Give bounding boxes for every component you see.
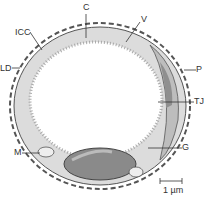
label-icc: ICC — [15, 28, 31, 37]
label-c: C — [83, 3, 90, 12]
label-ld: LD — [0, 64, 12, 73]
mitochondrion — [129, 167, 143, 177]
label-tj: TJ — [194, 97, 204, 106]
mitochondrion — [38, 147, 54, 157]
nucleus — [64, 148, 136, 180]
label-p: P — [196, 65, 202, 74]
label-v: V — [141, 15, 147, 24]
lumen — [30, 42, 162, 158]
label-m: M — [14, 148, 22, 157]
scale-bar-label: 1 µm — [163, 186, 183, 195]
label-g: G — [182, 143, 189, 152]
